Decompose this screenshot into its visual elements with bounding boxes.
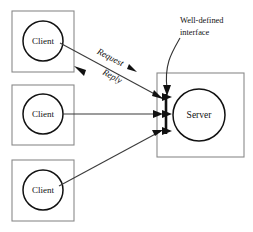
reply-arrowhead (74, 66, 86, 76)
connection-client2-server (63, 110, 163, 118)
request-label: Request (95, 46, 126, 69)
callout-curve (166, 38, 180, 89)
client-label-1: Client (32, 36, 54, 46)
callout-line-2: interface (180, 28, 210, 37)
client-label-2: Client (32, 109, 54, 119)
diagram-canvas: Client Client Client Server (0, 0, 253, 232)
client-server-diagram: Client Client Client Server (0, 0, 253, 232)
reply-label: Reply (100, 66, 124, 85)
callout-line-1: Well-defined (180, 16, 224, 25)
client-node-3: Client (12, 160, 74, 221)
client-node-1: Client (12, 11, 74, 72)
client2-arrowhead (153, 110, 163, 118)
server-label: Server (187, 110, 213, 120)
client-node-2: Client (12, 85, 74, 145)
connection-client3-server (59, 130, 163, 186)
client-label-3: Client (32, 185, 54, 195)
request-mid-arrowhead (127, 64, 137, 72)
interface-callout: Well-defined interface (163, 16, 224, 96)
